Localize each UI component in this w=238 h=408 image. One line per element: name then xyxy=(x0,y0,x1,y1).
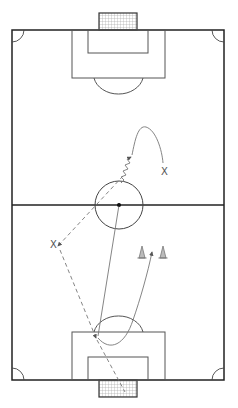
player-marker: X xyxy=(50,239,57,250)
run-curve-cones xyxy=(98,252,152,345)
cone-icon xyxy=(159,246,168,258)
player-marker: X xyxy=(161,166,168,177)
dribble-zigzag xyxy=(121,157,131,183)
ball-icon xyxy=(118,204,121,207)
soccer-pitch-diagram: X X xyxy=(0,0,238,408)
cone-icon xyxy=(138,246,147,258)
bottom-goal xyxy=(99,380,137,397)
pass-dashed-to-box xyxy=(60,250,96,338)
movement-lines xyxy=(58,127,163,392)
top-goal xyxy=(99,13,137,30)
top-penalty-area xyxy=(72,30,165,94)
pass-dashed-to-left xyxy=(58,176,123,246)
bottom-penalty-area xyxy=(72,316,165,380)
run-curve-top xyxy=(132,127,163,163)
